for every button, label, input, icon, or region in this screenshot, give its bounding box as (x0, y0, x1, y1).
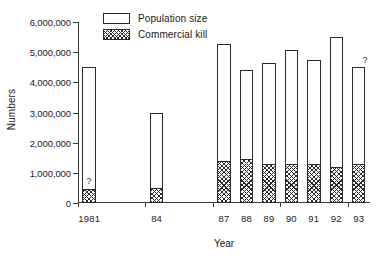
bar-annotation-93: ? (362, 56, 367, 65)
legend-item: Commercial kill (103, 28, 207, 41)
x-axis-tick (78, 203, 79, 207)
y-axis-tick (73, 113, 78, 114)
y-axis-tick (73, 173, 78, 174)
x-axis-tick-label: 92 (331, 213, 342, 224)
bar-commercial-kill-1981 (82, 189, 95, 203)
bar-population-91 (307, 60, 320, 203)
bar-commercial-kill-93 (352, 164, 365, 203)
x-axis-tick-label: 90 (286, 213, 297, 224)
y-axis-tick (73, 82, 78, 83)
bar-population-89 (262, 63, 275, 203)
bar-population-90 (285, 50, 298, 203)
y-axis-title: Numbers (6, 75, 17, 145)
bar-commercial-kill-89 (262, 164, 275, 203)
y-axis-tick-label: 6,000,000 (30, 17, 71, 28)
x-axis-tick-label: 88 (241, 213, 252, 224)
x-axis-tick (348, 203, 349, 207)
y-axis-tick (73, 22, 78, 23)
x-axis-title: Year (78, 238, 370, 249)
x-axis-tick (280, 203, 281, 207)
y-axis-tick-label: 3,000,000 (30, 107, 71, 118)
legend-swatch-open (103, 13, 130, 24)
x-axis-tick (213, 203, 214, 207)
bar-population-93: ? (352, 67, 365, 203)
bar-commercial-kill-90 (285, 164, 298, 203)
legend-item: Population size (103, 12, 207, 25)
x-axis-tick (145, 203, 146, 207)
legend-item-label: Population size (138, 13, 207, 24)
bar-population-92 (330, 37, 343, 203)
y-axis-tick (73, 52, 78, 53)
x-axis-tick-label: 91 (308, 213, 319, 224)
y-axis-line (78, 22, 79, 203)
x-axis-tick-label: 87 (219, 213, 230, 224)
bar-commercial-kill-91 (307, 164, 320, 203)
legend-swatch-hatched (103, 29, 130, 40)
bar-population-88 (240, 70, 253, 203)
y-axis-tick-label: 0 (66, 198, 71, 209)
bar-annotation-1981: ? (86, 177, 91, 186)
bar-population-87 (217, 44, 230, 203)
x-axis-tick-label: 93 (353, 213, 364, 224)
bar-commercial-kill-87 (217, 161, 230, 203)
bar-commercial-kill-84 (150, 188, 163, 203)
x-axis-tick-label: 1981 (78, 213, 100, 224)
x-axis-tick-label: 84 (151, 213, 162, 224)
y-axis-tick-label: 4,000,000 (30, 77, 71, 88)
chart-legend: Population sizeCommercial kill (103, 12, 207, 44)
bar-commercial-kill-92 (330, 167, 343, 203)
legend-item-label: Commercial kill (138, 29, 207, 40)
plot-area: 01,000,0002,000,0003,000,0004,000,0005,0… (78, 22, 370, 203)
y-axis-tick-label: 1,000,000 (30, 167, 71, 178)
bar-population-84 (150, 113, 163, 204)
y-axis-tick-label: 2,000,000 (30, 137, 71, 148)
bar-commercial-kill-88 (240, 159, 253, 203)
y-axis-tick (73, 143, 78, 144)
x-axis-tick-label: 89 (263, 213, 274, 224)
y-axis-tick-label: 5,000,000 (30, 47, 71, 58)
bar-chart: Numbers 01,000,0002,000,0003,000,0004,00… (0, 0, 377, 260)
bar-population-1981: ? (82, 67, 95, 203)
